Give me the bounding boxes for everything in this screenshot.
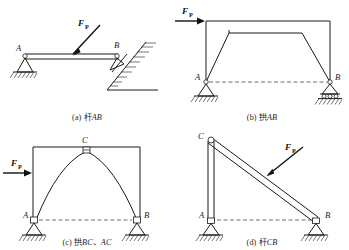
ground-hatching-b (315, 99, 342, 105)
node-label-a: A (15, 43, 22, 53)
caption-member-c: BC、AC (82, 238, 111, 247)
force-subscript-fp: P (85, 23, 89, 30)
ground-hatching-a (191, 96, 218, 102)
arch-members (36, 152, 137, 220)
caption-index-b: (b) (247, 113, 257, 122)
force-subscript-fp: P (292, 147, 296, 154)
figure-root: F P A B (a) 杆AB (0, 0, 349, 250)
panel-d-caption: (d) 杆CB (175, 235, 349, 247)
panel-d-drawing: F P C A B (175, 125, 349, 250)
node-label-b: B (144, 210, 150, 220)
caption-cjk-c: 拱 (74, 238, 82, 247)
node-label-b: B (325, 210, 331, 220)
force-arrow-fp (175, 18, 205, 25)
ground-hatching-a (10, 72, 37, 78)
node-label-b: B (114, 40, 120, 50)
panel-c: F P C A B (c) 拱BC、AC (0, 125, 174, 250)
caption-member-a: AB (92, 113, 102, 122)
force-label-fp: F (77, 18, 84, 28)
panel-c-caption: (c) 拱BC、AC (0, 235, 174, 247)
panel-b-drawing: F P A B (175, 0, 349, 125)
node-label-c: C (82, 135, 88, 145)
force-label-fp: F (181, 6, 188, 16)
node-label-a: A (194, 72, 201, 82)
panel-d: F P C A B (d) 杆CB (175, 125, 349, 250)
pin-joint-c (208, 137, 214, 143)
force-subscript-fp: P (189, 11, 193, 18)
member-ab (25, 54, 118, 59)
node-label-c: C (198, 131, 204, 141)
pin-support-a (191, 80, 218, 102)
panel-a-caption: (a) 杆AB (0, 110, 174, 122)
caption-cjk-d: 杆 (259, 238, 267, 247)
node-label-b: B (335, 72, 341, 82)
panel-a-drawing: F P A B (0, 0, 174, 125)
frame-ab (206, 21, 330, 82)
caption-index-d: (d) (247, 238, 257, 247)
node-label-a: A (22, 210, 29, 220)
pin-support-a (10, 54, 37, 78)
caption-member-b: AB (267, 113, 277, 122)
force-label-fp: F (10, 158, 17, 168)
member-cb (208, 138, 318, 222)
panel-a: F P A B (a) 杆AB (0, 0, 174, 125)
caption-cjk-a: 杆 (84, 113, 92, 122)
crown-hinge-c (83, 147, 90, 153)
caption-index-a: (a) (72, 113, 81, 122)
member-ac (208, 141, 214, 221)
force-arrow-fp (73, 25, 100, 56)
panel-b-caption: (b) 拱AB (175, 110, 349, 122)
caption-member-d: CB (267, 238, 278, 247)
force-label-fp: F (284, 142, 291, 152)
node-label-a: A (198, 210, 205, 220)
caption-cjk-b: 拱 (259, 113, 267, 122)
panel-c-drawing: F P C A B (0, 125, 174, 250)
roller-support-b (315, 80, 342, 105)
force-subscript-fp: P (18, 163, 22, 170)
panel-b: F P A B (b) 拱AB (175, 0, 349, 125)
frame-outline (33, 147, 140, 220)
caption-index-c: (c) (62, 238, 71, 247)
force-arrow-fp (3, 170, 32, 177)
